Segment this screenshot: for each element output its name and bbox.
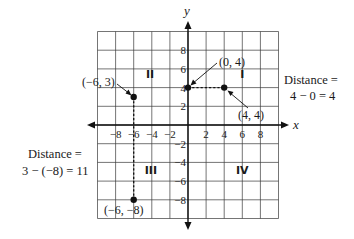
quadrant-label: IV bbox=[236, 164, 249, 177]
x-tick-label: 4 bbox=[221, 128, 227, 140]
x-tick-label: 2 bbox=[203, 128, 209, 140]
y-tick-label: −8 bbox=[174, 194, 186, 206]
pointer-4-4 bbox=[229, 92, 248, 108]
pointer-0-4 bbox=[192, 63, 217, 84]
x-tick-label: −6 bbox=[128, 128, 140, 140]
pointer-arrowhead-icon bbox=[126, 90, 132, 96]
vertical-distance-line1: Distance = bbox=[28, 147, 82, 161]
point-label-neg6-neg8: (−6, −8) bbox=[104, 203, 144, 217]
quadrant-labels: IIIIIIIV bbox=[145, 68, 249, 177]
horizontal-distance-line1: Distance = bbox=[284, 73, 338, 87]
y-axis-label: y bbox=[182, 3, 190, 18]
vertical-distance-line2: 3 − (−8) = 11 bbox=[22, 164, 89, 178]
x-tick-label: −8 bbox=[110, 128, 122, 140]
coordinate-plane-diagram: x y −8−6−4−22468 8642−2−4−6−8 IIIIIIIV (… bbox=[0, 0, 354, 239]
x-axis-right-arrow-icon bbox=[281, 122, 289, 129]
y-tick-label: −2 bbox=[174, 138, 186, 150]
horizontal-distance-line2: 4 − 0 = 4 bbox=[290, 89, 336, 103]
quadrant-label: III bbox=[145, 164, 157, 177]
quadrant-label: I bbox=[240, 68, 244, 81]
point-4-4 bbox=[221, 84, 227, 90]
y-tick-label: 2 bbox=[181, 100, 187, 112]
y-tick-label: 8 bbox=[181, 44, 187, 56]
y-tick-label: −6 bbox=[174, 175, 186, 187]
point-label-4-4: (4, 4) bbox=[238, 108, 264, 122]
x-tick-label: 8 bbox=[258, 128, 264, 140]
x-tick-label: −4 bbox=[146, 128, 158, 140]
axes: x y bbox=[87, 3, 299, 230]
y-tick-label: 6 bbox=[181, 63, 187, 75]
point-label-neg6-3: (−6, 3) bbox=[82, 75, 115, 89]
y-tick-label: −4 bbox=[174, 156, 186, 168]
y-axis-up-arrow-icon bbox=[185, 21, 192, 29]
point-neg6-3 bbox=[131, 94, 137, 100]
point-0-4 bbox=[185, 84, 191, 90]
x-axis-left-arrow-icon bbox=[87, 122, 95, 129]
x-tick-label: 6 bbox=[240, 128, 246, 140]
x-tick-labels: −8−6−4−22468 bbox=[110, 128, 264, 140]
quadrant-label: II bbox=[146, 68, 154, 81]
y-axis-down-arrow-icon bbox=[185, 222, 192, 230]
point-label-0-4: (0, 4) bbox=[219, 55, 245, 69]
x-axis-label: x bbox=[292, 117, 299, 132]
